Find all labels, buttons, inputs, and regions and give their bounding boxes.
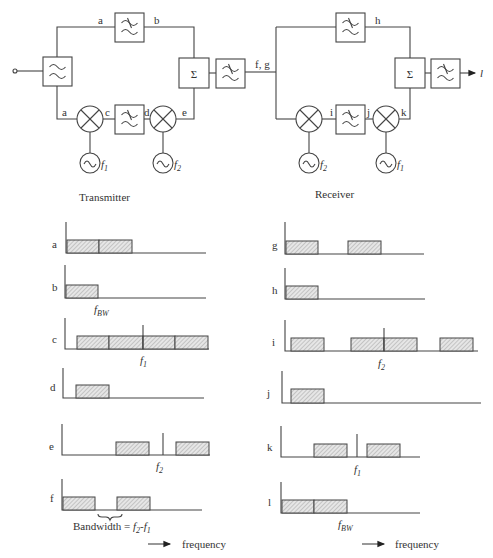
tx-input-filter [43,57,72,86]
svg-text:f1: f1 [354,463,361,478]
svg-text:c: c [52,333,57,345]
svg-text:f2: f2 [156,460,163,475]
svg-text:h: h [272,284,278,296]
receiver-block: f2 f1 Σ l h i j k Receiver [276,13,483,200]
node-e: e [182,106,187,118]
node-c: c [105,106,110,118]
svg-text:b: b [52,281,58,293]
receiver-caption: Receiver [315,188,354,200]
rx-mixer-2 [373,106,399,132]
rx-mixer-1 [296,106,322,132]
svg-text:Σ: Σ [407,68,413,80]
svg-text:f2: f2 [378,357,385,372]
frequency-label: frequency [395,538,439,550]
svg-text:f2: f2 [320,158,327,173]
svg-text:f1: f1 [397,158,404,173]
node-i: i [330,106,333,118]
svg-text:g: g [272,239,278,251]
input-terminal [13,69,17,73]
svg-text:k: k [267,441,273,453]
svg-text:e: e [49,440,54,452]
oscillator-f1-icon [80,153,100,173]
rx-mid-filter [336,105,365,134]
svg-text:i: i [272,336,275,348]
node-fg: f, g [255,58,270,70]
svg-text:fBW: fBW [94,303,110,318]
transmitter-caption: Transmitter [79,191,130,203]
svg-text:f2: f2 [174,158,181,173]
node-k: k [401,106,407,118]
oscillator-f1-icon [376,153,396,173]
node-a-top: a [98,14,103,26]
svg-text:j: j [266,387,270,399]
svg-text:f1: f1 [101,158,108,173]
svg-text:l: l [268,496,271,508]
transmitter-block: f1 f2 Σ a b a c d e f, g Transmitter [13,13,276,203]
spectra-right: g h i f2 j k f1 l fBW frequency [266,222,481,550]
oscillator-f2-icon [299,153,319,173]
svg-text:a: a [52,238,57,250]
tx-output-filter [216,59,245,88]
spectra-left: a b fBW c f1 d e f2 f Bandwidth = [49,222,226,550]
node-j: j [366,106,370,118]
rx-top-filter [336,13,365,42]
output-l: l [480,67,483,79]
tx-top-filter [115,13,144,42]
node-b: b [154,14,160,26]
svg-text:Σ: Σ [191,68,197,80]
node-a-bottom: a [62,106,67,118]
diagram-canvas: f1 f2 Σ a b a c d e f, g Transmitter [0,0,493,558]
tx-mixer-1 [77,106,103,132]
tx-mid-filter [115,105,144,134]
node-d: d [144,106,150,118]
frequency-label: frequency [182,538,226,550]
svg-text:Bandwidth = f2-f1: Bandwidth = f2-f1 [73,520,151,535]
svg-text:f: f [50,492,54,504]
rx-output-filter [431,59,460,88]
svg-text:d: d [50,381,56,393]
tx-mixer-2 [150,106,176,132]
oscillator-f2-icon [153,153,173,173]
svg-text:f1: f1 [140,354,147,369]
svg-text:fBW: fBW [338,518,354,533]
node-h: h [375,14,381,26]
